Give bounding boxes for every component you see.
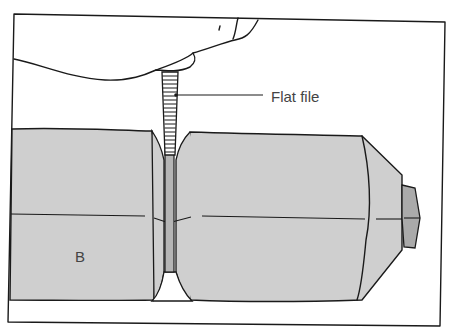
finger-crease-1 (233, 18, 238, 39)
label-part-b: B (75, 248, 85, 265)
hand-outline (14, 20, 258, 80)
file-tang (165, 150, 174, 272)
finger-crease-2 (219, 26, 220, 30)
joint-flank-left (152, 131, 164, 300)
illustration: Flat file B (0, 0, 454, 330)
joint-flank-right (176, 132, 190, 300)
label-flat-file: Flat file (271, 88, 319, 105)
hex-nut (402, 185, 420, 248)
